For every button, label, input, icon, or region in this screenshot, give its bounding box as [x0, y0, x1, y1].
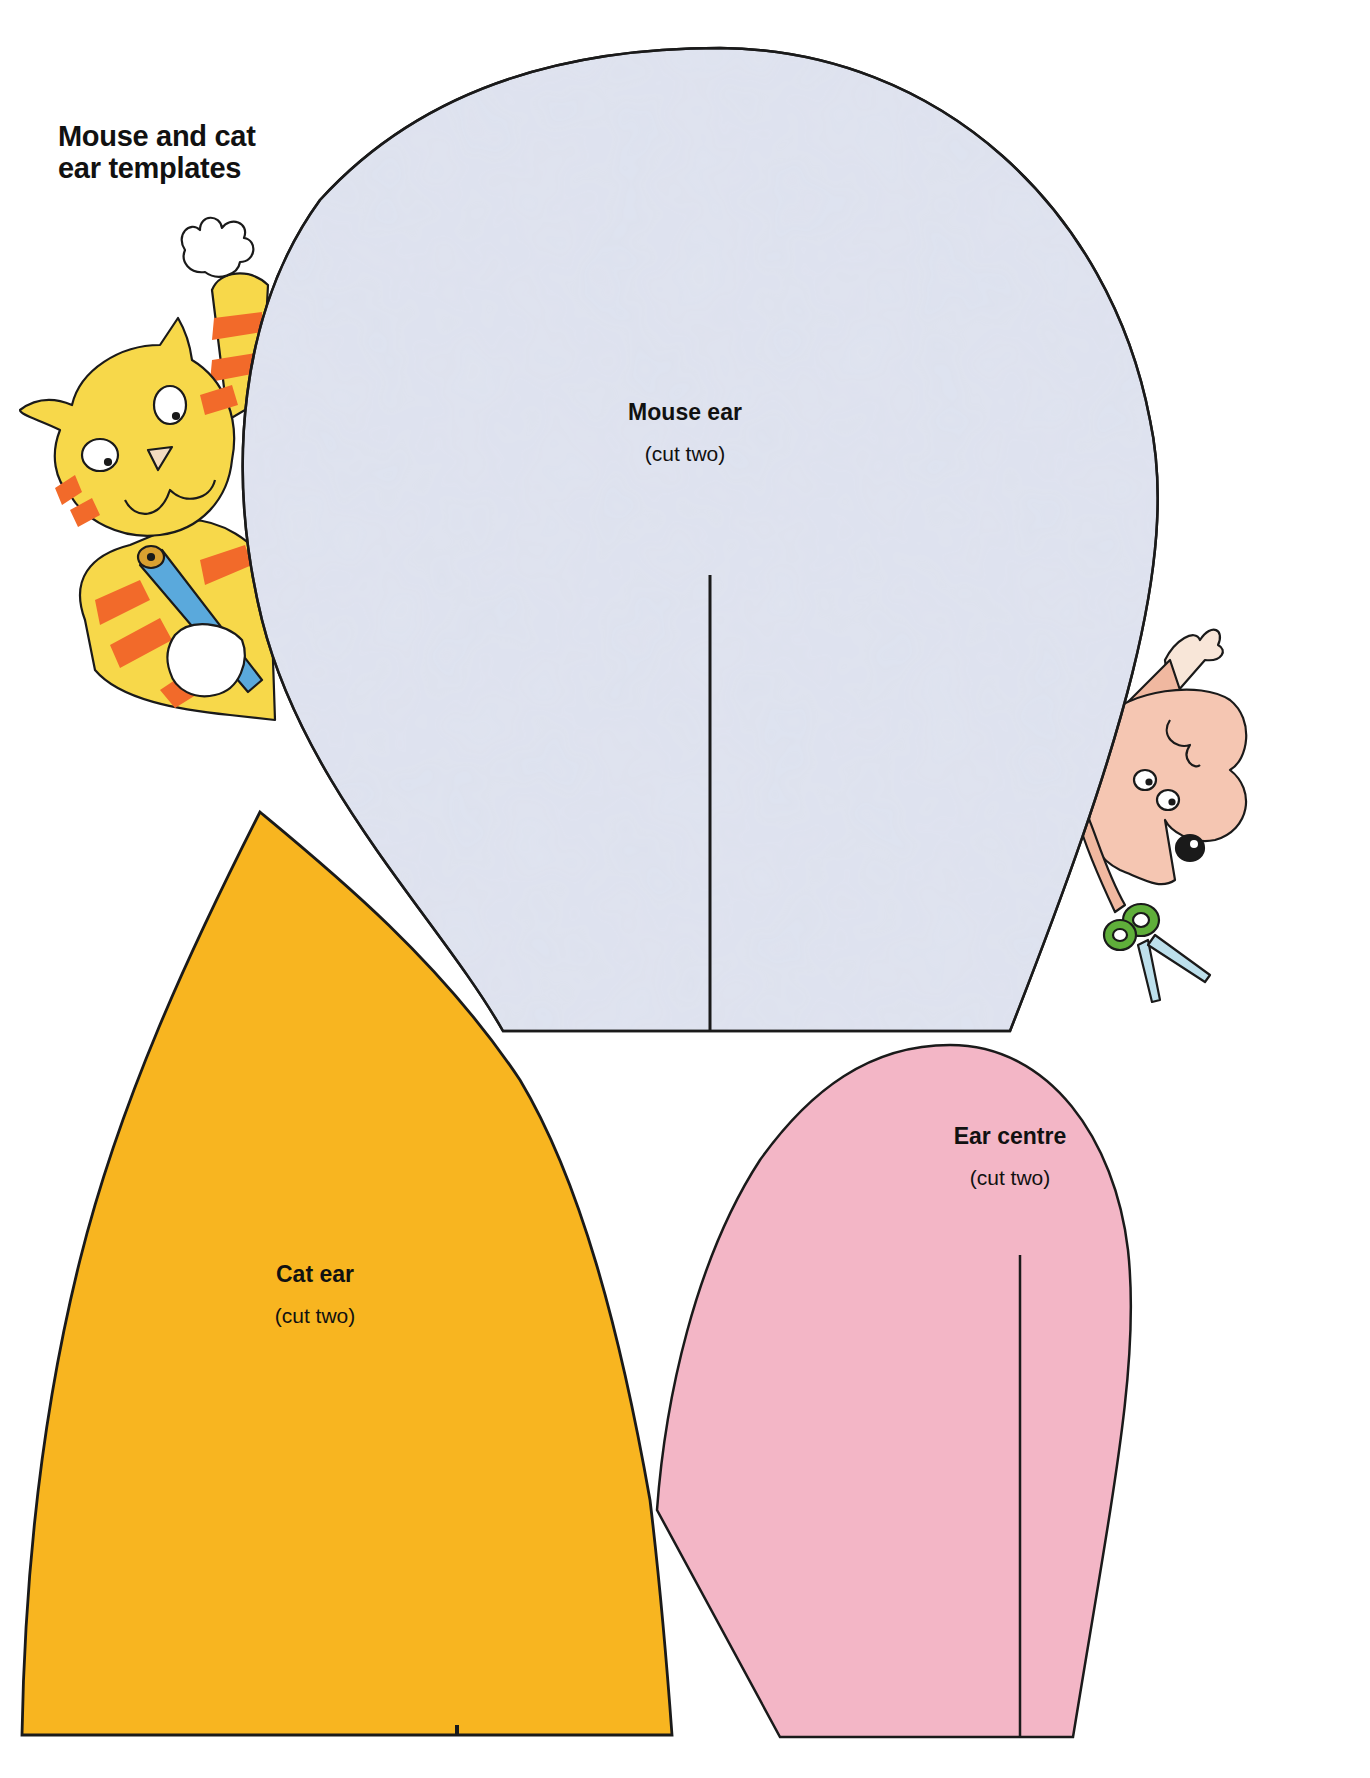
mouse-ear-label: Mouse ear (cut two) [628, 398, 742, 468]
cat-ear-label: Cat ear (cut two) [275, 1260, 356, 1330]
ear-centre-note: (cut two) [954, 1164, 1067, 1192]
mouse-ear-note: (cut two) [628, 440, 742, 468]
ear-centre-name: Ear centre [954, 1122, 1067, 1150]
mouse-ear-name: Mouse ear [628, 398, 742, 426]
cat-ear-name: Cat ear [275, 1260, 356, 1288]
mouse-ear-template [243, 48, 1158, 1031]
cat-illustration [20, 218, 275, 720]
cat-ear-note: (cut two) [275, 1302, 356, 1330]
ear-centre-label: Ear centre (cut two) [954, 1122, 1067, 1192]
templates-canvas [0, 0, 1370, 1778]
